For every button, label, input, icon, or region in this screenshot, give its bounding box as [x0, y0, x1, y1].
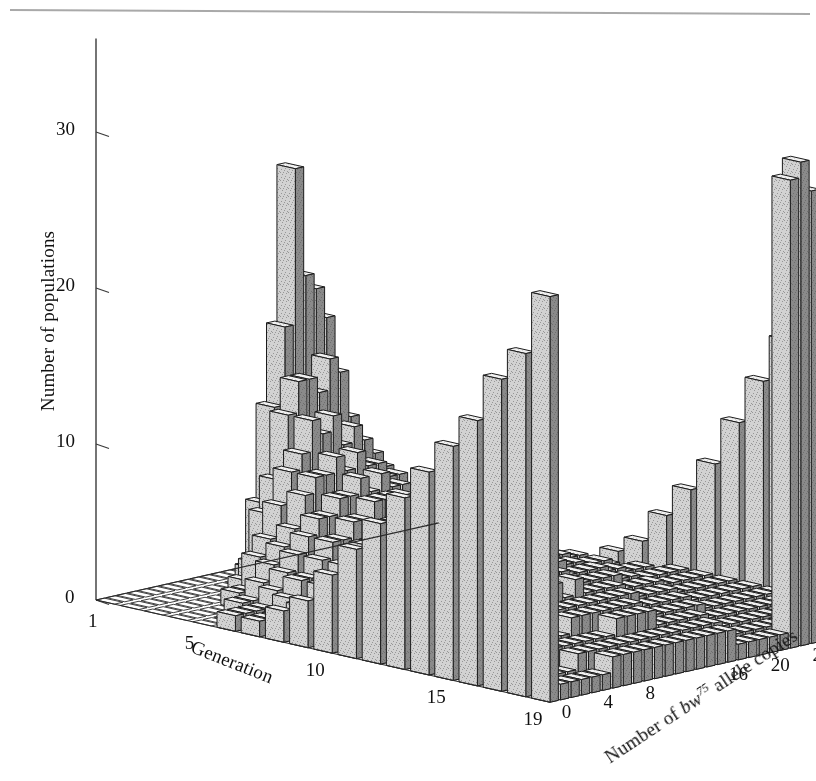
figure-root: Number of populations Generation Number … — [0, 0, 816, 781]
z-tick-16: 16 — [729, 663, 748, 685]
bar-chart-3d-canvas — [0, 0, 816, 781]
z-tick-24: 24 — [813, 644, 816, 666]
z-tick-8: 8 — [645, 682, 655, 704]
x-tick-19: 19 — [524, 708, 543, 730]
x-tick-15: 15 — [427, 686, 446, 708]
z-tick-4: 4 — [604, 691, 614, 713]
x-tick-1: 1 — [88, 610, 98, 632]
z-tick-0: 0 — [562, 701, 572, 723]
x-tick-10: 10 — [306, 659, 325, 681]
y-tick-30: 30 — [56, 118, 75, 140]
y-axis-title: Number of populations — [37, 211, 59, 431]
y-tick-0: 0 — [65, 586, 75, 608]
z-tick-20: 20 — [771, 654, 790, 676]
y-tick-20: 20 — [56, 274, 75, 296]
x-tick-5: 5 — [185, 632, 195, 654]
y-tick-10: 10 — [56, 430, 75, 452]
